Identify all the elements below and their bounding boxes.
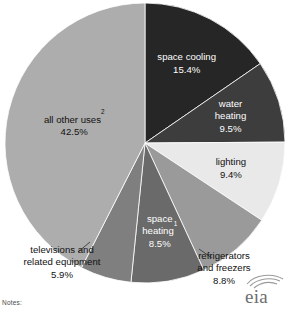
pie-chart-svg: space cooling15.4%waterheating9.5%lighti… bbox=[0, 0, 290, 313]
pie-wedge-group bbox=[5, 3, 285, 283]
pie-label-lighting: lighting9.4% bbox=[216, 156, 246, 180]
eia-logo-svg: eia bbox=[243, 272, 287, 306]
notes-label: Notes: bbox=[2, 299, 22, 306]
eia-wordmark: eia bbox=[245, 286, 268, 306]
pie-chart: space cooling15.4%waterheating9.5%lighti… bbox=[0, 0, 290, 313]
pie-label-televisions-and-related-equipment: televisions andrelated equipment5.9% bbox=[24, 243, 101, 279]
eia-logo: eia bbox=[243, 272, 287, 306]
